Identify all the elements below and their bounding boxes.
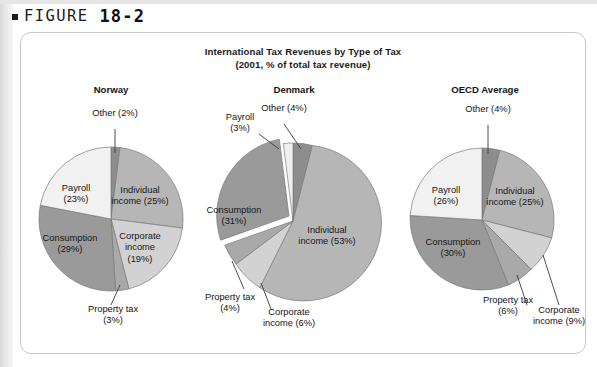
label-payroll-oecd-average-line2: (26%)	[432, 196, 460, 207]
label-consumption-oecd-average: Consumption (30%)	[426, 237, 481, 260]
leader-line-corporate-oecd	[543, 255, 559, 305]
page-edge-shading-left	[0, 0, 13, 367]
label-property-tax-oecd-average-line2: (6%)	[483, 306, 533, 317]
square-bullet-icon	[12, 14, 18, 20]
page-edge-shading-top	[0, 0, 597, 4]
label-other-oecd-average: Other (4%)	[465, 104, 510, 115]
label-property-tax-oecd-average-line1: Property tax	[483, 295, 533, 306]
label-payroll-oecd-average: Payroll (26%)	[432, 185, 460, 208]
figure-number: 18-2	[99, 6, 145, 26]
label-individual-income-oecd-average: Individual income (25%)	[486, 186, 543, 209]
label-consumption-oecd-average-line1: Consumption	[426, 237, 481, 248]
label-corporate-income-oecd-average-line2: income (9%)	[533, 316, 585, 327]
label-corporate-income-oecd-average-line1: Corporate	[533, 305, 585, 316]
label-consumption-oecd-average-line2: (30%)	[426, 248, 481, 259]
label-other-oecd-average-line1: Other (4%)	[465, 104, 510, 115]
pie-slices-oecd-average	[410, 148, 554, 290]
figure-panel: International Tax Revenues by Type of Ta…	[20, 32, 586, 354]
label-property-tax-oecd-average: Property tax (6%)	[483, 295, 533, 318]
label-payroll-oecd-average-line1: Payroll	[432, 185, 460, 196]
label-corporate-income-oecd-average: Corporate income (9%)	[533, 305, 585, 328]
label-individual-income-oecd-average-line2: income (25%)	[486, 197, 543, 208]
pie-slice-payroll	[410, 148, 482, 220]
figure-label: FIGURE	[24, 7, 88, 25]
figure-caption: FIGURE 18-2	[12, 6, 145, 26]
label-individual-income-oecd-average-line1: Individual	[486, 186, 543, 197]
